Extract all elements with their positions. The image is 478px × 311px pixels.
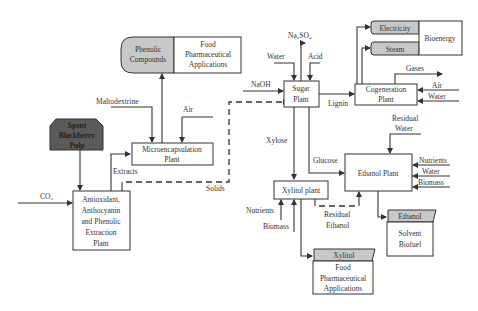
cogen-to-electricity-arrow	[357, 27, 370, 84]
extraction-label-2: Anthocyanin	[82, 206, 121, 215]
cogen-label-1: Cogeneration	[366, 85, 407, 94]
ethanol-product-label: Ethanol	[398, 212, 421, 221]
extraction-plant: Antioxidant, Anthocyanin and Phenolic Ex…	[73, 191, 130, 250]
residual-ethanol-label-1: Residual	[324, 210, 350, 219]
water-eth-label: Water	[422, 167, 440, 176]
acid-label: Acid	[308, 52, 323, 61]
glucose-label: Glucose	[313, 156, 338, 165]
xylitol-use-1: Food	[335, 263, 351, 272]
sugar-label-2: Plant	[293, 95, 309, 104]
xylitol-product-label: Xylitol	[333, 251, 354, 260]
phenolic-apps-label-2: Pharmaceutical	[185, 50, 231, 59]
xylose-label: Xylose	[266, 136, 288, 145]
process-flow-diagram: Phenolic Compounds Food Pharmaceutical A…	[0, 0, 478, 311]
ethanol-use-2: Biofuel	[399, 240, 422, 249]
residual-ethanol-label-2: Ethanol	[326, 221, 349, 230]
ethanol-plant: Ethanol Plant	[345, 154, 412, 191]
residual-water-label-1: Residual	[392, 114, 418, 123]
phenolic-apps-label-1: Food	[200, 40, 216, 49]
water-cogen-label: Water	[428, 92, 446, 101]
xylitol-use-3: Applications	[324, 284, 362, 293]
air-micro-label: Air	[183, 105, 194, 114]
ethanol-use-1: Solvent	[399, 229, 423, 238]
electricity-label: Electricity	[379, 24, 410, 33]
pulp-label-3: Pulp	[69, 141, 84, 150]
ethanol-output-arrow	[378, 191, 386, 217]
phenolic-apps-label-3: Applications	[189, 60, 227, 69]
maltodextrine-label: Maltodextrine	[96, 97, 139, 106]
bioenergy-label: Bioenergy	[424, 34, 455, 43]
ethanol-plant-label: Ethanol Plant	[358, 169, 400, 178]
maltodextrine-arrow	[111, 107, 152, 142]
extraction-label-4: Extraction	[85, 228, 116, 237]
ethanol-product: Ethanol Solvent Biofuel	[387, 210, 436, 256]
xylitol-output-arrow	[301, 199, 312, 256]
air-micro-arrow	[182, 117, 213, 142]
extraction-label-1: Antioxidant,	[82, 195, 120, 204]
xylitol-plant: Xylitol plant	[274, 181, 328, 199]
extraction-label-3: and Phenolic	[82, 217, 122, 226]
sugar-label-1: Sugar	[292, 84, 310, 93]
xylitol-plant-label: Xylitol plant	[282, 186, 321, 195]
phenolic-compounds-label-2: Compounds	[130, 55, 166, 64]
nutrients-eth-label: Nutrients	[419, 156, 447, 165]
biomass-eth-label: Biomass	[418, 178, 444, 187]
extracts-label: Extracts	[113, 167, 138, 176]
microencapsulation-plant: Microencapsulation Plant	[132, 143, 213, 165]
micro-label-1: Microencapsulation	[142, 145, 202, 154]
nutrients-xyl-label: Nutrients	[246, 206, 274, 215]
cogen-to-steam-arrow	[362, 48, 370, 84]
phenolic-compounds-label-1: Phenolic	[135, 45, 162, 54]
na2so4-arrow	[301, 43, 305, 81]
lignin-label: Lignin	[328, 99, 348, 108]
sugar-plant: Sugar Plant	[284, 81, 319, 107]
pulp-label-1: Spent	[68, 121, 87, 130]
naoh-label: NaOH	[251, 80, 271, 89]
na2so4-label: Na₂SO₄	[288, 31, 312, 40]
micro-label-2: Plant	[164, 155, 180, 164]
water-sugar-arrow	[274, 63, 294, 80]
spent-blackberry-pulp-feed: Spent Blackberry Pulp	[50, 119, 103, 150]
extraction-label-5: Plant	[93, 239, 109, 248]
xylitol-use-2: Pharmaceutical	[320, 274, 366, 283]
residual-water-arrow	[390, 134, 421, 153]
co2-label: CO₂	[40, 192, 53, 201]
cogen-label-2: Plant	[378, 95, 394, 104]
gases-label: Gases	[406, 64, 424, 73]
acid-arrow	[310, 63, 320, 80]
xylitol-product: Xylitol Food Pharmaceutical Applications	[313, 249, 375, 294]
residual-water-label-2: Water	[395, 124, 413, 133]
solids-label: Solids	[206, 184, 225, 193]
biomass-xyl-label: Biomass	[263, 222, 289, 231]
steam-label: Steam	[386, 45, 405, 54]
phenolic-compounds-product: Phenolic Compounds Food Pharmaceutical A…	[121, 37, 241, 73]
water-sugar-label: Water	[267, 52, 285, 61]
air-cogen-label: Air	[432, 81, 443, 90]
pulp-label-2: Blackberry	[59, 131, 95, 140]
solids-dashed-arrow	[126, 102, 288, 182]
cogeneration-plant: Cogeneration Plant	[355, 84, 417, 105]
bioenergy-product: Electricity Steam Bioenergy	[371, 21, 462, 55]
